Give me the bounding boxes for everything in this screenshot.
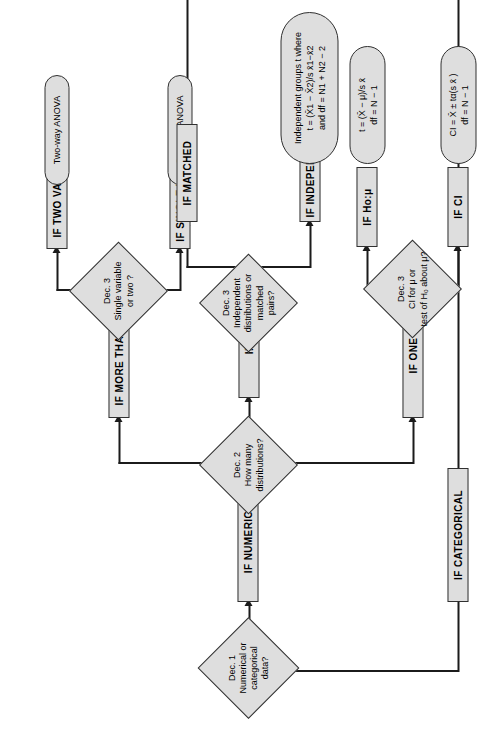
decision-1-numerical-or-categorical[interactable]: Dec. 1 Numerical or categorical data? bbox=[212, 632, 284, 704]
decision-3-single-variable-or-two[interactable]: Dec. 3 Single variable or two ? bbox=[83, 256, 153, 326]
one-sample-t-formula: t = (X̄ − μ)/s x̄ df = N − 1 bbox=[355, 78, 379, 132]
result-independent-groups-t[interactable]: Independent groups t where t = (X̄1 − X̄… bbox=[280, 12, 338, 164]
one-sample-t-line2: df = N − 1 bbox=[367, 78, 379, 132]
decision-3-indep-line4: matched bbox=[254, 274, 265, 333]
flowchart-page: Dec. 1 Numerical or categorical data? IF… bbox=[0, 0, 499, 742]
independent-groups-formula: Independent groups t where t = (X̄1 − X̄… bbox=[291, 32, 327, 144]
decision-2-text: Dec. 2 How many distributions? bbox=[213, 416, 283, 514]
decision-3-ci-or-test[interactable]: Dec. 3 CI for μ or test of H₀ about μ? bbox=[377, 254, 447, 324]
decision-1-text: Dec. 1 Numerical or categorical data? bbox=[212, 616, 284, 720]
decision-3-ci-label: Dec. 3 bbox=[395, 252, 406, 327]
decision-2-line2: How many bbox=[242, 438, 253, 491]
connector-dec3anova-to-twovars bbox=[56, 251, 58, 291]
decision-3-anova-text: Dec. 3 Single variable or two ? bbox=[83, 244, 153, 338]
connector-dec1-down bbox=[284, 670, 458, 672]
decision-2-line3: distributions? bbox=[254, 438, 265, 491]
decision-3-anova-line2: Single variable bbox=[112, 261, 123, 320]
flowchart-canvas: Dec. 1 Numerical or categorical data? IF… bbox=[0, 0, 499, 742]
connector-dec3anova-to-singlevar bbox=[179, 251, 181, 291]
connector-dec3indep-to-independent bbox=[309, 224, 311, 268]
connector-dec2-to-morethantwo bbox=[118, 420, 120, 464]
decision-3-anova-label: Dec. 3 bbox=[101, 261, 112, 320]
decision-3-ci-line2: CI for μ or bbox=[406, 252, 417, 327]
decision-3-independent-or-matched[interactable]: Dec. 3 Independent distributions or matc… bbox=[213, 268, 283, 338]
decision-1-line3: categorical bbox=[248, 643, 259, 694]
branch-if-categorical[interactable]: IF CATEGORICAL bbox=[447, 468, 468, 602]
result-one-sample-t[interactable]: t = (X̄ − μ)/s x̄ df = N − 1 bbox=[349, 46, 385, 164]
decision-2-label: Dec. 2 bbox=[231, 438, 242, 491]
decision-3-indep-line3: distributions or bbox=[242, 274, 253, 333]
confidence-interval-line2: df = N − 1 bbox=[458, 74, 470, 137]
confidence-interval-line1: CI = X̄ ± tα(s x̄ ) bbox=[446, 74, 458, 137]
decision-1-label: Dec. 1 bbox=[226, 643, 237, 694]
branch-if-ho-mu[interactable]: IF Ho:μ bbox=[356, 167, 377, 247]
branch-if-ci[interactable]: IF CI bbox=[447, 167, 468, 247]
decision-3-ci-text: Dec. 3 CI for μ or test of H₀ about μ? bbox=[377, 236, 447, 342]
decision-3-indep-text: Dec. 3 Independent distributions or matc… bbox=[213, 250, 283, 356]
independent-groups-line1: Independent groups t where bbox=[291, 32, 303, 144]
decision-3-ci-line3: test of H₀ about μ? bbox=[418, 252, 429, 327]
connector-dec2-spine-down bbox=[283, 462, 413, 464]
result-confidence-interval[interactable]: CI = X̄ ± tα(s x̄ ) df = N − 1 bbox=[440, 46, 476, 164]
decision-3-indep-line2: Independent bbox=[231, 274, 242, 333]
decision-3-indep-line5: pairs? bbox=[265, 274, 276, 333]
independent-groups-line2: t = (X̄1 − X̄2)/s x̄1−x̄2 bbox=[303, 32, 315, 144]
confidence-interval-formula: CI = X̄ ± tα(s x̄ ) df = N − 1 bbox=[446, 74, 470, 137]
decision-1-line4: data? bbox=[259, 643, 270, 694]
branch-if-matched[interactable]: IF MATCHED bbox=[176, 124, 197, 222]
connector-dec2-to-one bbox=[412, 420, 414, 464]
decision-1-line2: Numerical or bbox=[237, 643, 248, 694]
decision-3-indep-label: Dec. 3 bbox=[220, 274, 231, 333]
result-two-way-anova[interactable]: Two-way ANOVA bbox=[44, 75, 69, 185]
connector-categorical-rail bbox=[457, 602, 459, 672]
independent-groups-line3: and df = N1 + N2 − 2 bbox=[315, 32, 327, 144]
one-sample-t-line1: t = (X̄ − μ)/s x̄ bbox=[355, 78, 367, 132]
decision-2-how-many-distributions[interactable]: Dec. 2 How many distributions? bbox=[213, 430, 283, 500]
decision-3-anova-line3: or two ? bbox=[124, 261, 135, 320]
